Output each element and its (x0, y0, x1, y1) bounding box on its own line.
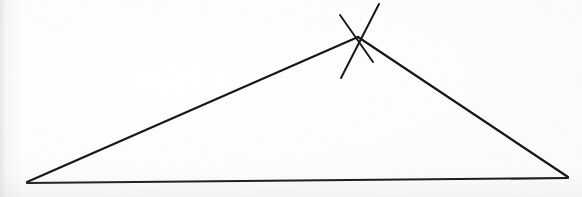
triangle-base-edge (27, 178, 568, 183)
triangle-edges (27, 37, 568, 183)
triangle-drawing (0, 0, 582, 197)
triangle-right-edge (358, 37, 568, 177)
sketch-canvas (0, 0, 582, 197)
apex-cross-mark (340, 4, 379, 78)
triangle-left-edge (27, 37, 358, 182)
apex-cross-stroke-minor (340, 15, 373, 62)
